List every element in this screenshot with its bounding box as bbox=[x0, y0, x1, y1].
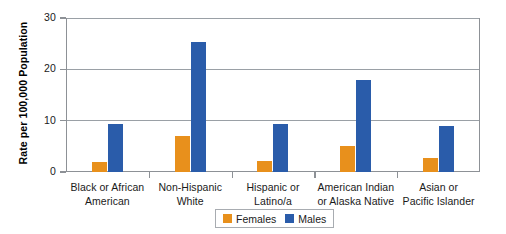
bar-group bbox=[397, 18, 480, 172]
x-label-line: Latino/a bbox=[226, 195, 321, 209]
bar-chart: Rate per 100,000 Population 0102030 Blac… bbox=[0, 0, 506, 234]
y-axis-title: Rate per 100,000 Population bbox=[12, 0, 34, 188]
y-tick-label-0: 0 bbox=[22, 165, 56, 177]
legend-label-males: Males bbox=[298, 213, 326, 225]
x-label-line: Pacific Islander bbox=[391, 195, 486, 209]
x-label-line: American Indian bbox=[308, 181, 403, 195]
bar-group bbox=[66, 18, 149, 172]
bar-group bbox=[314, 18, 397, 172]
x-axis-label-1: Non-HispanicWhite bbox=[143, 181, 238, 208]
legend: Females Males bbox=[215, 209, 334, 228]
x-label-line: White bbox=[143, 195, 238, 209]
bar-group bbox=[232, 18, 315, 172]
bar-females-2 bbox=[257, 161, 272, 172]
y-tick-label-10: 10 bbox=[22, 114, 56, 126]
x-label-line: Black or African bbox=[60, 181, 155, 195]
bar-males-3 bbox=[356, 80, 371, 172]
x-label-line: Asian or bbox=[391, 181, 486, 195]
bars-layer bbox=[66, 18, 480, 172]
y-tick-label-20: 20 bbox=[22, 62, 56, 74]
legend-label-females: Females bbox=[236, 213, 276, 225]
legend-swatch-males-icon bbox=[285, 214, 294, 223]
y-tick-label-30: 30 bbox=[22, 11, 56, 23]
x-label-line: or Alaska Native bbox=[308, 195, 403, 209]
x-tick-4 bbox=[397, 172, 398, 178]
x-axis-label-4: Asian orPacific Islander bbox=[391, 181, 486, 208]
legend-item-males: Males bbox=[285, 213, 326, 225]
bar-males-0 bbox=[108, 124, 123, 172]
x-label-line: Non-Hispanic bbox=[143, 181, 238, 195]
x-axis-label-0: Black or AfricanAmerican bbox=[60, 181, 155, 208]
x-axis-label-2: Hispanic orLatino/a bbox=[226, 181, 321, 208]
bar-males-1 bbox=[191, 42, 206, 172]
bar-males-4 bbox=[439, 126, 454, 172]
legend-item-females: Females bbox=[223, 213, 276, 225]
bar-females-0 bbox=[92, 162, 107, 172]
x-tick-1 bbox=[149, 172, 150, 178]
x-label-line: Hispanic or bbox=[226, 181, 321, 195]
x-label-line: American bbox=[60, 195, 155, 209]
bar-females-4 bbox=[423, 158, 438, 172]
bar-group bbox=[149, 18, 232, 172]
legend-swatch-females-icon bbox=[223, 214, 232, 223]
x-tick-2 bbox=[232, 172, 233, 178]
bar-males-2 bbox=[273, 124, 288, 172]
x-tick-3 bbox=[314, 172, 315, 178]
bar-females-1 bbox=[175, 136, 190, 172]
x-axis-label-3: American Indianor Alaska Native bbox=[308, 181, 403, 208]
bar-females-3 bbox=[340, 146, 355, 172]
